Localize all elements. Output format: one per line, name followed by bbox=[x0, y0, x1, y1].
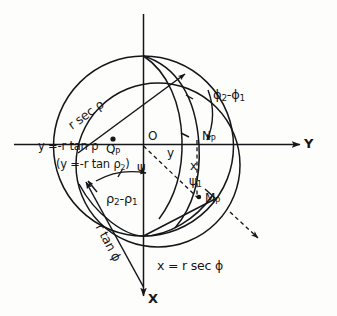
q-point-letter: Q bbox=[106, 142, 115, 156]
psi-beside-paren-label: ψ bbox=[137, 160, 145, 173]
figure-canvas: Y X O QP NP MP y x ψ1 y =-r tan ρ (y =-r… bbox=[0, 0, 337, 316]
phi-difference-second-symbol: ϕ bbox=[231, 87, 239, 102]
arcs-group bbox=[79, 56, 212, 236]
y-equals-minus-r-tan-rho-label: y =-r tan ρ bbox=[38, 141, 98, 153]
origin-label: O bbox=[148, 130, 157, 142]
axis-label-x: X bbox=[148, 292, 158, 305]
rho-difference-first-symbol: ρ bbox=[106, 191, 114, 206]
phi-difference-label: ϕ2-ϕ1 bbox=[213, 88, 245, 103]
n-point-letter: N bbox=[202, 129, 211, 143]
rho-2-expression-close: ) bbox=[125, 157, 129, 171]
phi-difference-second-subscript: 1 bbox=[240, 93, 245, 103]
rho-difference-second-symbol: ρ bbox=[124, 191, 132, 206]
mp-exit-dashed-arrow bbox=[230, 212, 258, 238]
q-point-label: QP bbox=[106, 143, 120, 156]
n-point-subscript: P bbox=[211, 134, 216, 144]
n-point-label: NP bbox=[202, 130, 215, 143]
psi-one-letter: ψ bbox=[189, 174, 197, 188]
rho-2-expression-open: (y =-r tan ρ bbox=[56, 157, 121, 171]
q-point-subscript: P bbox=[115, 147, 120, 157]
small-x-label: x bbox=[190, 160, 197, 172]
small-y-label: y bbox=[167, 147, 174, 159]
m-point-label: MP bbox=[205, 192, 220, 205]
x-equals-r-sec-phi-label: x = r sec ϕ bbox=[157, 260, 223, 273]
rho-difference-label: ρ2-ρ1 bbox=[106, 192, 137, 207]
rho-difference-second-subscript: 1 bbox=[132, 197, 137, 207]
axis-label-y: Y bbox=[304, 137, 313, 150]
y-equals-minus-r-tan-rho-2-label: (y =-r tan ρ2) bbox=[56, 159, 130, 172]
psi-one-subscript: 1 bbox=[197, 179, 202, 189]
q-point-dot bbox=[110, 136, 115, 141]
m-point-letter: M bbox=[205, 191, 215, 205]
m-point-dot bbox=[197, 195, 201, 199]
m-point-subscript: P bbox=[215, 196, 220, 206]
psi-one-label: ψ1 bbox=[189, 175, 202, 188]
rho-difference-left-tick-arrow bbox=[88, 181, 97, 192]
